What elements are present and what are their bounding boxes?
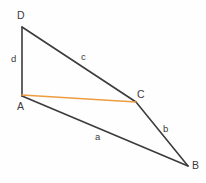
geometry-canvas bbox=[0, 0, 206, 183]
segment-diagonal-ac bbox=[22, 95, 136, 102]
side-label-b: b bbox=[163, 124, 168, 134]
geometry-figure: D A C B d c b a bbox=[0, 0, 206, 183]
vertex-label-B: B bbox=[192, 160, 199, 171]
segment-c bbox=[22, 27, 136, 102]
side-label-d: d bbox=[11, 54, 16, 64]
vertex-label-D: D bbox=[17, 10, 25, 21]
vertex-label-C: C bbox=[137, 89, 145, 100]
segment-b bbox=[136, 102, 188, 166]
vertex-label-A: A bbox=[17, 101, 24, 112]
side-label-a: a bbox=[95, 132, 100, 142]
side-label-c: c bbox=[81, 52, 86, 62]
